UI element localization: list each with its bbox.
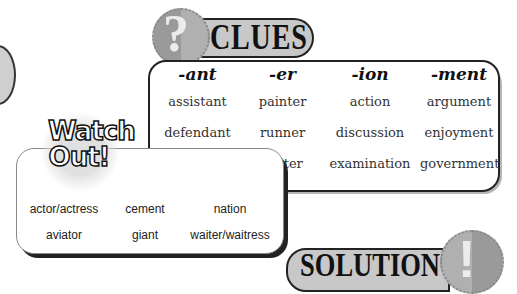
word-cell: actor/actress [18, 196, 110, 222]
clues-title: CLUES [210, 18, 308, 56]
watch-out-words: actor/actress cement nation aviator gian… [18, 196, 280, 248]
word-cell: assistant [150, 86, 245, 117]
watch-out-title-line2: Out! [48, 144, 110, 170]
word-cell: waiter/waitress [180, 222, 280, 248]
column-header: -ant [150, 62, 245, 86]
exclamation-glyph: ! [458, 230, 475, 288]
column-header: -ion [320, 62, 420, 86]
word-cell: aviator [18, 222, 110, 248]
watch-out-title-line1: Watch [48, 118, 110, 144]
solution-title: SOLUTION [300, 246, 440, 284]
word-cell: nation [180, 196, 280, 222]
word-cell: cement [110, 196, 180, 222]
word-cell: painter [245, 86, 320, 117]
word-cell: giant [110, 222, 180, 248]
column-header: -ment [420, 62, 498, 86]
partial-circle-decoration [0, 45, 16, 105]
watch-out-title: Watch Out! [48, 118, 110, 170]
word-cell: argument [420, 86, 498, 117]
word-cell: defendant [150, 117, 245, 148]
question-mark-glyph: ? [163, 5, 189, 63]
word-cell: enjoyment [420, 117, 498, 148]
column-header: -er [245, 62, 320, 86]
word-cell: action [320, 86, 420, 117]
word-cell: runner [245, 117, 320, 148]
word-cell: government [420, 148, 498, 179]
word-cell: examination [320, 148, 420, 179]
word-cell: discussion [320, 117, 420, 148]
